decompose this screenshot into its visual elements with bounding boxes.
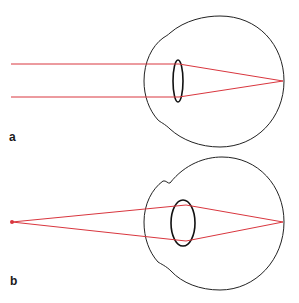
ray-top-a bbox=[11, 64, 283, 81]
ray-top-b bbox=[12, 205, 283, 222]
eyeball-outline-b bbox=[144, 157, 284, 290]
panel-label-a: a bbox=[9, 130, 16, 144]
eyeball-outline-a bbox=[144, 16, 284, 147]
panel-b bbox=[10, 157, 284, 290]
panel-label-b: b bbox=[10, 274, 17, 288]
eye-accommodation-diagram bbox=[0, 0, 299, 303]
panel-a bbox=[11, 16, 284, 147]
lens-b bbox=[171, 200, 195, 246]
lens-a bbox=[173, 60, 183, 102]
ray-bottom-b bbox=[12, 222, 283, 241]
ray-bottom-a bbox=[11, 81, 283, 97]
